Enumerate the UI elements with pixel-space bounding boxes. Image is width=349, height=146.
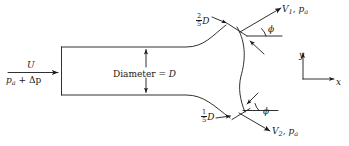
top-width-leader-upper-icon <box>212 17 227 23</box>
bottom-exit-width-label: 15D <box>201 109 214 123</box>
upper-wall <box>62 25 227 47</box>
axis-x-label: x <box>336 78 341 87</box>
top-outlet-label: V1, pa <box>282 5 308 15</box>
bottom-angle-label: ϕ <box>263 107 269 116</box>
top-width-leader-lower-icon <box>250 41 264 54</box>
bottom-outlet-label: V2, pa <box>272 127 298 137</box>
top-exit-width-symbol: D <box>202 16 209 26</box>
top-angle-arc <box>262 29 267 37</box>
splitter-vane <box>237 27 245 112</box>
bottom-width-leader-upper-icon <box>247 93 258 104</box>
diameter-symbol: D <box>169 69 176 79</box>
diameter-text: Diameter = <box>113 69 169 79</box>
top-outlet-pressure-subscript: a <box>304 8 308 16</box>
inlet-pressure-delta-term: + Δp <box>16 75 42 85</box>
duct-flow-diagram: U pa + Δp Diameter = D 25D 15D V1, pa V2… <box>0 0 349 146</box>
top-outlet-velocity-arrow-icon <box>240 8 281 32</box>
inlet-velocity-label: U <box>27 61 35 70</box>
axis-y-label: y <box>299 51 304 60</box>
top-exit-width-label: 25D <box>196 13 209 27</box>
bottom-outlet-pressure-subscript: a <box>294 130 298 138</box>
inlet-pressure-label: pa + Δp <box>6 76 41 86</box>
diameter-label: Diameter = D <box>113 70 176 79</box>
bottom-exit-width-symbol: D <box>207 112 214 122</box>
bottom-angle-arc <box>255 104 259 111</box>
top-angle-label: ϕ <box>268 25 274 34</box>
